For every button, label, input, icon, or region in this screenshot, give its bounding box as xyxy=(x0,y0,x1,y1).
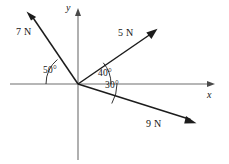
force-label-9n: 9 N xyxy=(146,119,161,129)
force-label-5n: 5 N xyxy=(118,28,133,38)
angle-label-40: 40° xyxy=(98,69,112,79)
angle-label-30: 30° xyxy=(105,81,119,91)
vector-5n-line xyxy=(78,34,152,85)
force-label-7n: 7 N xyxy=(16,27,31,37)
x-axis-label: x xyxy=(207,90,212,100)
x-axis-arrowhead xyxy=(207,81,215,87)
force-diagram-figure: 7 N 5 N 9 N 50° 40° 30° x y xyxy=(0,0,229,164)
vector-9n xyxy=(78,84,197,124)
angle-label-50: 50° xyxy=(43,66,57,76)
vector-9n-arrowhead xyxy=(184,116,196,124)
vector-9n-line xyxy=(78,84,191,120)
y-axis-arrowhead xyxy=(75,8,81,16)
vector-5n-arrowhead xyxy=(146,29,157,39)
y-axis-label: y xyxy=(66,3,71,13)
